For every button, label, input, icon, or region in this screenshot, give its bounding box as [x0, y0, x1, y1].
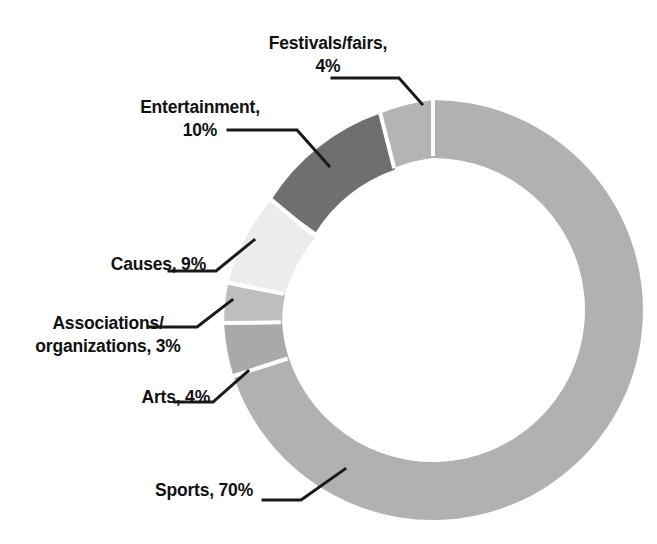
slice-label-causes: Causes, 9% — [46, 253, 206, 276]
slice-label-arts: Arts, 4% — [50, 386, 210, 409]
slice-label-associations: Associations/ organizations, 3% — [2, 312, 214, 358]
donut-slices — [224, 100, 643, 520]
slice-label-festivals: Festivals/fairs, 4% — [228, 32, 428, 78]
slice-label-sports: Sports, 70% — [48, 479, 253, 502]
separator-arts-associations — [223, 322, 281, 323]
chart-canvas: Festivals/fairs, 4% Entertainment, 10% C… — [0, 0, 657, 544]
slice-sports[interactable] — [233, 100, 643, 520]
leader-line-festivals — [332, 78, 422, 104]
slice-label-entertainment: Entertainment, 10% — [90, 96, 310, 142]
